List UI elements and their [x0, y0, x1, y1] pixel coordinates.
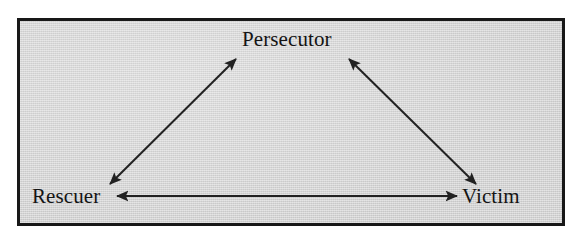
node-label-persecutor: Persecutor	[242, 29, 332, 50]
figure-root: Persecutor Rescuer Victim	[0, 0, 580, 244]
node-label-victim: Victim	[462, 186, 520, 207]
node-label-rescuer: Rescuer	[32, 186, 100, 207]
